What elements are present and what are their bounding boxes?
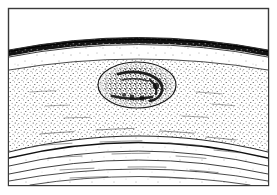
- lens-core-stipple: [96, 60, 180, 110]
- figure-root: Stratigraphic Cross-Section with Lenticu…: [0, 0, 277, 195]
- cross-section-svg: [0, 0, 277, 195]
